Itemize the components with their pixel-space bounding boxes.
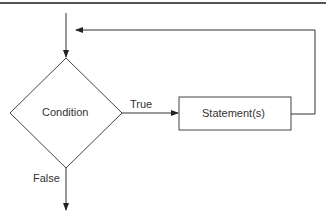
condition-label: Condition bbox=[42, 107, 88, 118]
true-label: True bbox=[130, 99, 152, 110]
false-label: False bbox=[33, 173, 60, 184]
statements-label: Statement(s) bbox=[202, 108, 265, 119]
